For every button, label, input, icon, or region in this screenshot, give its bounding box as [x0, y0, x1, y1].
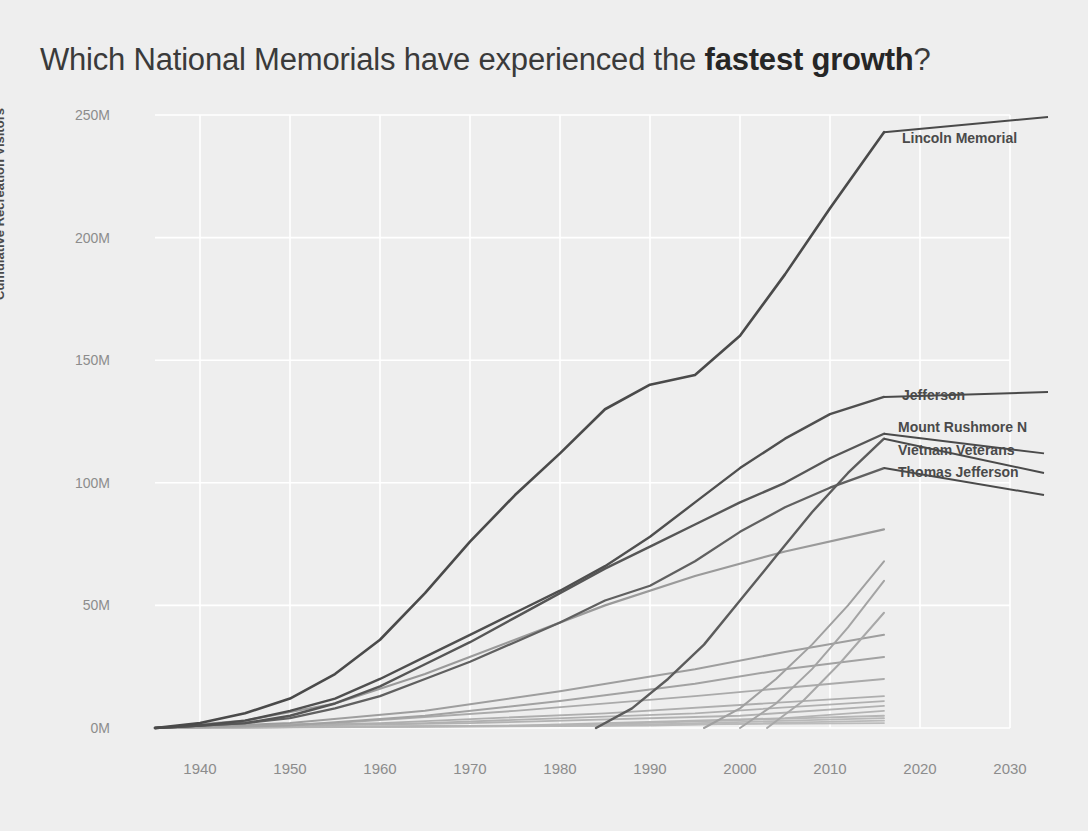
- series-line-mount-rushmore-n: [155, 434, 884, 728]
- x-tick-1940: 1940: [160, 760, 240, 777]
- chart-root: Which National Memorials have experience…: [0, 0, 1088, 831]
- series-label-vietnam-veterans: Vietnam Veterans: [898, 442, 1014, 458]
- chart-lines-svg: [155, 115, 1010, 728]
- series-label-thomas-jefferson: Thomas Jefferson: [898, 464, 1019, 480]
- y-tick-250M: 250M: [40, 107, 110, 123]
- plot-area: [155, 115, 1010, 728]
- x-tick-1990: 1990: [610, 760, 690, 777]
- x-tick-1960: 1960: [340, 760, 420, 777]
- x-tick-2010: 2010: [790, 760, 870, 777]
- chart-title-suffix: ?: [914, 42, 931, 77]
- x-tick-2030: 2030: [970, 760, 1050, 777]
- y-tick-50M: 50M: [40, 597, 110, 613]
- series-label-lincoln-memorial: Lincoln Memorial: [902, 130, 1017, 146]
- x-tick-1950: 1950: [250, 760, 330, 777]
- chart-title-prefix: Which National Memorials have experience…: [40, 42, 705, 77]
- series-label-mount-rushmore-n: Mount Rushmore N: [898, 419, 1027, 435]
- y-axis-label: Cumulative Recreation Visitors: [0, 108, 7, 300]
- x-tick-1980: 1980: [520, 760, 600, 777]
- y-tick-0M: 0M: [40, 720, 110, 736]
- x-tick-1970: 1970: [430, 760, 510, 777]
- chart-title-emphasis: fastest growth: [705, 42, 914, 77]
- series-label-jefferson: Jefferson: [902, 387, 965, 403]
- chart-title: Which National Memorials have experience…: [40, 42, 931, 78]
- series-line-jefferson: [155, 397, 884, 728]
- y-tick-100M: 100M: [40, 475, 110, 491]
- x-tick-2020: 2020: [880, 760, 960, 777]
- y-tick-200M: 200M: [40, 230, 110, 246]
- x-tick-2000: 2000: [700, 760, 780, 777]
- y-tick-150M: 150M: [40, 352, 110, 368]
